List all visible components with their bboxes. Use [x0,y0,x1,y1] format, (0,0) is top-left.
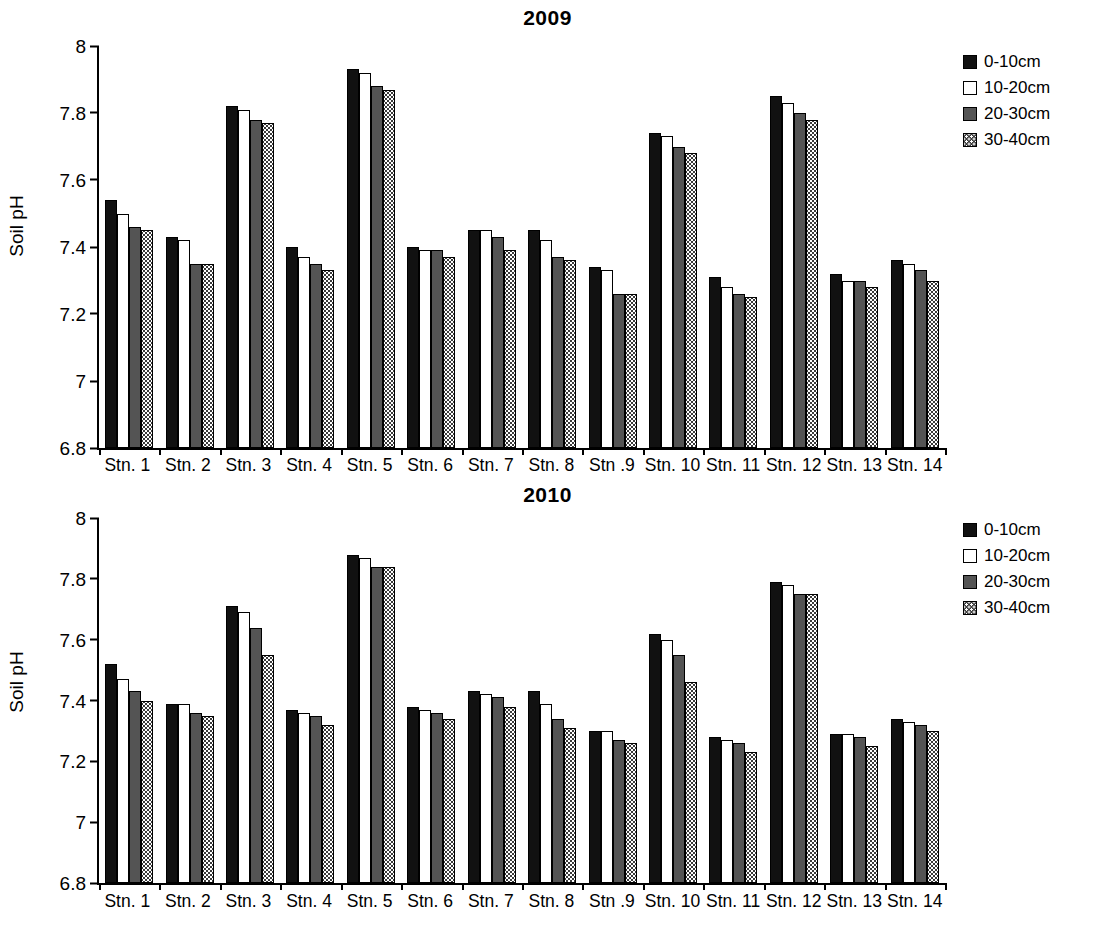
bar-group [522,46,582,448]
bar [709,737,721,883]
bar-group [401,46,461,448]
x-axis-label: Stn. 1 [97,891,158,912]
x-axis-tick [824,883,826,890]
y-axis-label-2009: Soil pH [6,195,28,256]
bar [322,270,334,448]
legend-label: 10-20cm [984,546,1050,566]
bar [721,740,733,883]
x-axis-label: Stn. 3 [218,891,279,912]
bar-group [99,46,159,448]
bar [685,153,697,448]
x-axis-label: Stn. 11 [703,455,764,476]
bar [709,277,721,448]
bar [794,594,806,883]
x-axis-label: Stn. 3 [218,455,279,476]
x-axis-tick [764,883,766,890]
bar [310,264,322,448]
x-axis-tick [462,883,464,890]
legend-swatch-icon [963,81,977,95]
legend-swatch-icon [963,133,977,147]
page-title-2009: 2009 [0,6,1095,30]
bar [141,701,153,884]
y-axis-tick: 7.4 [60,691,99,710]
y-axis-label-2010: Soil pH [6,651,28,712]
bar [262,123,274,448]
bar [226,106,238,448]
bar [854,281,866,449]
bar-group [764,518,824,883]
bar-group [159,518,219,883]
bar [540,704,552,883]
x-axis-label: Stn. 4 [279,891,340,912]
plot-area-2009: 87.87.67.47.276.8 [97,46,945,450]
bar-group [643,46,703,448]
bar [504,250,516,448]
x-axis-labels-2010: Stn. 1Stn. 2Stn. 3Stn. 4Stn. 5Stn. 6Stn.… [97,891,945,912]
bar [806,120,818,448]
y-axis-tick: 7.6 [60,630,99,649]
x-axis-label: Stn .9 [582,455,643,476]
bar [685,682,697,883]
x-axis-label: Stn. 13 [824,891,885,912]
bar-group [280,46,340,448]
legend-label: 0-10cm [984,52,1041,72]
bar [347,555,359,884]
bar [528,691,540,883]
x-axis-tick [643,448,645,455]
x-axis-tick [401,448,403,455]
bar [468,230,480,448]
bar [745,297,757,448]
bar [492,237,504,448]
y-axis-tick: 6.8 [60,439,99,458]
bar-group [824,46,884,448]
bar [347,69,359,448]
x-axis-label: Stn. 4 [279,455,340,476]
legend-2009: 0-10cm10-20cm20-30cm30-40cm [963,49,1050,153]
bar-group [462,518,522,883]
bar [443,719,455,883]
bar [286,247,298,448]
plot-area-2010: 87.87.67.47.276.8 [97,518,945,885]
chart-panel-2010: 2010 Soil pH 87.87.67.47.276.8 Stn. 1Stn… [0,481,1095,931]
bar [250,120,262,448]
x-axis-label: Stn. 5 [339,891,400,912]
bar [468,691,480,883]
legend-label: 30-40cm [984,130,1050,150]
legend-item: 20-30cm [963,101,1050,127]
bar [202,264,214,448]
bar [854,737,866,883]
bar [359,558,371,883]
y-axis-tick: 7.8 [60,569,99,588]
bar-group [703,46,763,448]
bar [443,257,455,448]
legend-item: 30-40cm [963,595,1050,621]
bar [190,713,202,883]
x-axis-label: Stn. 12 [763,455,824,476]
bar [480,694,492,883]
bar-group [159,46,219,448]
legend-2010: 0-10cm10-20cm20-30cm30-40cm [963,517,1050,621]
bar [310,716,322,883]
bar [504,707,516,883]
bar [733,294,745,448]
bar [721,287,733,448]
legend-swatch-icon [963,575,977,589]
bar [625,743,637,883]
bar [661,640,673,883]
legend-item: 10-20cm [963,75,1050,101]
x-axis-tick [522,883,524,890]
bar [794,113,806,448]
bar [915,725,927,883]
x-axis-tick [885,883,887,890]
bar [371,567,383,883]
bar [178,704,190,883]
x-axis-label: Stn .9 [582,891,643,912]
x-axis-tick [885,448,887,455]
bar [166,704,178,883]
y-axis-tick: 7.2 [60,304,99,323]
x-axis-tick [220,883,222,890]
bar [927,281,939,449]
bar [613,294,625,448]
bar [238,612,250,883]
bar [540,240,552,448]
